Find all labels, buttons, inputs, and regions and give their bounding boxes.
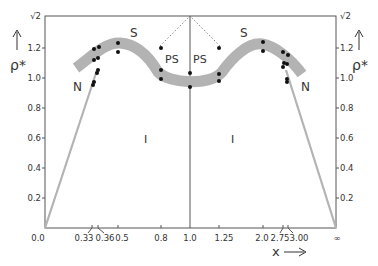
svg-text:0.4: 0.4 (27, 163, 41, 173)
n-i-boundary-right (286, 70, 336, 228)
region-s-left: S (130, 26, 138, 40)
svg-text:0.2: 0.2 (340, 193, 354, 203)
svg-text:0.0: 0.0 (31, 233, 45, 243)
dotted-boundary-right (190, 16, 220, 46)
s-band (76, 43, 302, 82)
region-s-right: S (240, 26, 248, 40)
y-axis-label-right: ρ* (352, 30, 368, 73)
svg-text:0.6: 0.6 (27, 133, 41, 143)
phase-diagram: N S PS PS S N I I √2 1.2 1.0 0.8 0.6 0.4… (0, 0, 378, 266)
dotted-boundary-left (160, 16, 190, 46)
svg-text:0.5: 0.5 (115, 233, 129, 243)
svg-text:3.00: 3.00 (290, 233, 309, 243)
svg-text:0.36: 0.36 (96, 233, 115, 243)
svg-text:0.8: 0.8 (340, 103, 354, 113)
svg-text:2.0: 2.0 (255, 233, 269, 243)
y-axis-label-left: ρ* (10, 30, 26, 73)
svg-text:1.2: 1.2 (340, 43, 354, 53)
svg-text:√2: √2 (30, 11, 41, 21)
n-i-boundary-left (45, 70, 97, 228)
region-ps-left: PS (165, 53, 179, 66)
region-ps-right: PS (193, 53, 207, 66)
region-n-left: N (73, 80, 82, 94)
region-i-left: I (144, 133, 147, 146)
svg-text:1.25: 1.25 (215, 233, 234, 243)
y-tick-labels-left: √2 1.2 1.0 0.8 0.6 0.4 0.2 (27, 11, 41, 203)
region-i-right: I (231, 133, 234, 146)
svg-text:2.75: 2.75 (271, 233, 290, 243)
svg-text:x: x (272, 244, 280, 259)
svg-text:√2: √2 (340, 11, 351, 21)
x-tick-labels: 0.0 0.33 0.36 0.5 0.8 1.0 1.25 2.0 2.75 … (31, 233, 340, 243)
svg-text:0.4: 0.4 (340, 163, 354, 173)
svg-text:0.8: 0.8 (154, 233, 168, 243)
svg-text:1.2: 1.2 (27, 43, 41, 53)
y-tick-labels-right: √2 1.2 1.0 0.8 0.6 0.4 0.2 (340, 11, 354, 203)
x-axis-label: x (272, 244, 306, 259)
svg-text:∞: ∞ (333, 233, 340, 243)
svg-text:1.0: 1.0 (340, 73, 354, 83)
svg-text:1.0: 1.0 (27, 73, 41, 83)
svg-text:0.33: 0.33 (75, 233, 94, 243)
svg-text:1.0: 1.0 (183, 233, 197, 243)
svg-text:0.6: 0.6 (340, 133, 354, 143)
svg-text:ρ*: ρ* (352, 57, 368, 73)
svg-text:0.2: 0.2 (27, 193, 41, 203)
svg-text:0.8: 0.8 (27, 103, 41, 113)
region-n-right: N (301, 80, 310, 94)
svg-text:ρ*: ρ* (10, 57, 26, 73)
